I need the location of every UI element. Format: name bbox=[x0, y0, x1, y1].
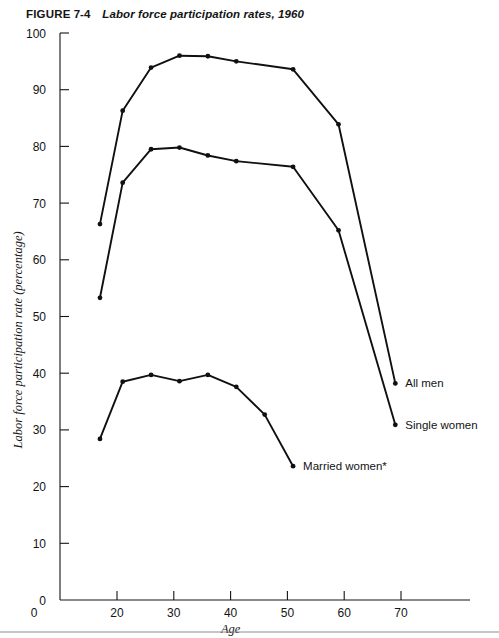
y-tick-label: 70 bbox=[33, 197, 47, 211]
data-point bbox=[149, 65, 154, 70]
data-point bbox=[234, 59, 239, 64]
x-axis-title: Age bbox=[220, 622, 241, 636]
y-tick-label: 60 bbox=[33, 253, 47, 267]
y-tick-label: 80 bbox=[33, 140, 47, 154]
data-point bbox=[120, 108, 125, 113]
data-point bbox=[336, 122, 341, 127]
series-line-single-women bbox=[100, 148, 395, 425]
data-point bbox=[234, 384, 239, 389]
x-tick-label: 70 bbox=[394, 606, 408, 620]
chart-plot: 0102030405060708090100 0203040506070 All… bbox=[0, 0, 499, 638]
data-point bbox=[120, 379, 125, 384]
x-tick-label: 20 bbox=[110, 606, 124, 620]
y-axis: 0102030405060708090100 bbox=[26, 27, 69, 608]
y-tick-label: 0 bbox=[39, 594, 46, 608]
data-point bbox=[149, 373, 154, 378]
data-point bbox=[177, 379, 182, 384]
data-point bbox=[262, 412, 267, 417]
series-line-all-men bbox=[100, 56, 395, 384]
data-point bbox=[291, 67, 296, 72]
data-point bbox=[205, 373, 210, 378]
data-point bbox=[177, 145, 182, 150]
series-label: Married women* bbox=[303, 460, 387, 472]
y-tick-label: 10 bbox=[33, 537, 47, 551]
data-series-group bbox=[98, 53, 398, 468]
y-tick-label: 30 bbox=[33, 423, 47, 437]
data-point bbox=[205, 153, 210, 158]
series-line-married-women bbox=[100, 375, 293, 466]
x-tick-label: 60 bbox=[338, 606, 352, 620]
data-point bbox=[393, 422, 398, 427]
data-point bbox=[177, 53, 182, 58]
data-point bbox=[98, 222, 103, 227]
series-label: Single women bbox=[405, 419, 477, 431]
data-point bbox=[336, 228, 341, 233]
line-chart-svg: 0102030405060708090100 0203040506070 All… bbox=[0, 0, 499, 638]
data-point bbox=[291, 164, 296, 169]
y-axis-title: Labor force participation rate (percenta… bbox=[11, 231, 25, 449]
x-axis: 0203040506070 bbox=[31, 591, 470, 620]
y-tick-label: 20 bbox=[33, 480, 47, 494]
x-tick-label: 40 bbox=[224, 606, 238, 620]
y-tick-label: 40 bbox=[33, 367, 47, 381]
y-tick-label: 90 bbox=[33, 83, 47, 97]
figure-container: FIGURE7-4Labor force participation rates… bbox=[0, 0, 499, 638]
data-point bbox=[98, 295, 103, 300]
data-point bbox=[120, 180, 125, 185]
data-point bbox=[393, 381, 398, 386]
series-label: All men bbox=[405, 377, 443, 389]
data-point bbox=[234, 159, 239, 164]
series-annotations: All menSingle womenMarried women* bbox=[303, 377, 477, 472]
data-point bbox=[149, 147, 154, 152]
x-tick-label: 0 bbox=[31, 606, 38, 620]
data-point bbox=[291, 464, 296, 469]
data-point bbox=[205, 54, 210, 59]
data-point bbox=[98, 437, 103, 442]
x-tick-label: 30 bbox=[167, 606, 181, 620]
y-tick-label: 50 bbox=[33, 310, 47, 324]
y-tick-label: 100 bbox=[26, 27, 46, 41]
x-tick-label: 50 bbox=[281, 606, 295, 620]
